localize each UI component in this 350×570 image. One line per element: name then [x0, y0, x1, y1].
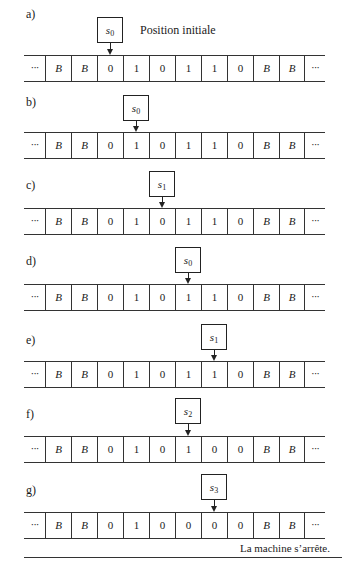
tape-ellipsis-left: ···: [24, 209, 45, 234]
tape-cell: B: [279, 133, 305, 158]
tape-cell: 0: [175, 513, 201, 538]
tape-cell: B: [71, 209, 97, 234]
head-state-box: s2: [175, 398, 201, 424]
tape-ellipsis-left: ···: [24, 133, 45, 158]
tape-cell: 1: [201, 362, 227, 387]
tape-cell: 1: [175, 133, 201, 158]
state-index: 2: [188, 410, 192, 419]
tape-ellipsis-right: ···: [305, 362, 325, 387]
step-label: g): [26, 484, 36, 496]
tape-ellipsis-right: ···: [305, 209, 325, 234]
tape-cell: B: [71, 285, 97, 310]
tape-cell: B: [45, 437, 71, 462]
tape-cell: 1: [201, 285, 227, 310]
tape-cell: 0: [227, 513, 253, 538]
tape-cell: 1: [175, 362, 201, 387]
tape-cell: B: [45, 513, 71, 538]
tape-cell: 1: [123, 513, 149, 538]
tape-cell: 0: [149, 133, 175, 158]
tape-cell: 1: [123, 209, 149, 234]
step-label: b): [26, 96, 36, 108]
step-g: g) s3 ···BB010000BB···: [0, 0, 350, 76]
tape: ···BB010000BB···: [24, 512, 325, 539]
tape-cell: 1: [175, 437, 201, 462]
tape-ellipsis-left: ···: [24, 513, 45, 538]
step-label: f): [26, 408, 34, 420]
step-label: e): [26, 334, 35, 346]
tape-cell: B: [45, 133, 71, 158]
tape: ···BB010110BB···: [24, 284, 325, 311]
tape-cell: B: [279, 209, 305, 234]
head-state-box: s1: [149, 171, 175, 197]
tape-cell: 0: [97, 362, 123, 387]
tape-cell: B: [279, 513, 305, 538]
state-index: 0: [136, 107, 140, 116]
tape-cell: B: [279, 285, 305, 310]
tape-ellipsis-right: ···: [305, 513, 325, 538]
tape-cell: B: [45, 362, 71, 387]
tape-cell: 0: [97, 285, 123, 310]
tape-cell: B: [45, 209, 71, 234]
tape-ellipsis-right: ···: [305, 133, 325, 158]
tape-cell: 0: [227, 285, 253, 310]
tape: ···BB010110BB···: [24, 208, 325, 235]
tape-ellipsis-left: ···: [24, 437, 45, 462]
tape-cell: 1: [123, 285, 149, 310]
tape-cell: 0: [97, 513, 123, 538]
state-index: 0: [188, 259, 192, 268]
tape-cell: B: [279, 437, 305, 462]
tape-cell: 0: [227, 209, 253, 234]
tape-cell: 0: [149, 209, 175, 234]
tape-ellipsis-right: ···: [305, 285, 325, 310]
tape: ···BB010100BB···: [24, 436, 325, 463]
head-state-box: s0: [175, 247, 201, 273]
tape-cell: 0: [227, 437, 253, 462]
state-index: 1: [214, 336, 218, 345]
tape-ellipsis-left: ···: [24, 285, 45, 310]
tape-cell: 0: [97, 133, 123, 158]
tape-cell: B: [71, 362, 97, 387]
tape-cell: 1: [123, 133, 149, 158]
state-index: 3: [214, 486, 218, 495]
tape-ellipsis-left: ···: [24, 362, 45, 387]
tape-cell: B: [253, 133, 279, 158]
tape-cell: 0: [201, 513, 227, 538]
tape-cell: B: [279, 362, 305, 387]
tape-cell: 1: [175, 285, 201, 310]
halt-note: La machine s’arrête.: [210, 542, 330, 554]
state-index: 1: [162, 183, 166, 192]
tape-cell: B: [253, 209, 279, 234]
tape-cell: 1: [201, 209, 227, 234]
tape-cell: B: [45, 285, 71, 310]
tape-cell: 1: [123, 437, 149, 462]
tape-cell: 0: [227, 362, 253, 387]
tape-cell: 0: [97, 209, 123, 234]
step-label: d): [26, 255, 36, 267]
tape-cell: B: [71, 437, 97, 462]
tape-cell: B: [253, 437, 279, 462]
tape-ellipsis-right: ···: [305, 437, 325, 462]
tape-cell: 0: [227, 133, 253, 158]
tape: ···BB010110BB···: [24, 361, 325, 388]
tape-cell: 0: [149, 362, 175, 387]
tape-cell: 0: [149, 513, 175, 538]
tape: ···BB010110BB···: [24, 132, 325, 159]
head-state-box: s1: [201, 324, 227, 350]
step-label: c): [26, 179, 35, 191]
tape-cell: B: [71, 513, 97, 538]
bottom-rule: [24, 557, 342, 558]
head-state-box: s3: [201, 474, 227, 500]
tape-cell: 1: [123, 362, 149, 387]
tape-cell: B: [71, 133, 97, 158]
tape-cell: B: [253, 285, 279, 310]
head-state-box: s0: [123, 95, 149, 121]
tape-cell: 1: [175, 209, 201, 234]
tape-cell: 0: [201, 437, 227, 462]
tape-cell: 0: [149, 285, 175, 310]
tape-cell: B: [253, 513, 279, 538]
tape-cell: 0: [97, 437, 123, 462]
tape-cell: B: [253, 362, 279, 387]
tape-cell: 0: [149, 437, 175, 462]
tape-cell: 1: [201, 133, 227, 158]
